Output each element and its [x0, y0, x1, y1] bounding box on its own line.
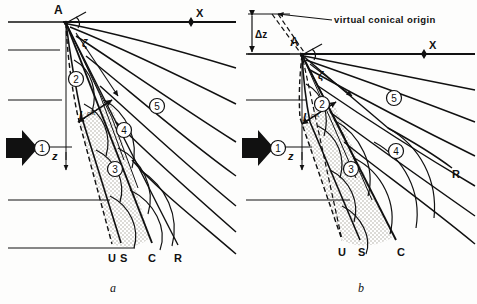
panel-caption-a: a [110, 281, 116, 296]
boundary-letter-s-a: S [120, 252, 127, 264]
x-axis-marker-a [188, 17, 194, 27]
zone-label-1-a: 1 [39, 143, 45, 154]
boundary-letter-c-a: C [148, 252, 156, 264]
z-axis-label-a: z [51, 150, 58, 162]
boundary-letter-r-a: R [174, 252, 182, 264]
panel-b-diagram: Δz virtual conical origin X A ζ z [238, 0, 477, 280]
boundary-letter-c-b: C [397, 246, 405, 258]
x-axis-label-a: X [196, 7, 204, 19]
flow-arrow-a [6, 130, 38, 166]
lcrit-label-b: L [303, 111, 310, 123]
boundary-letters-a: U S C R [108, 252, 182, 264]
boundary-letter-u-a: U [108, 252, 116, 264]
zone-label-5-a: 5 [154, 101, 160, 112]
zone-label-4-b: 4 [393, 146, 399, 157]
z-axis-label-b: z [287, 150, 294, 162]
zone-label-2-a: 2 [73, 74, 79, 85]
boundary-letter-s-b: S [358, 246, 365, 258]
apex-label-a: A [54, 3, 63, 17]
lcrit-label-a: L [79, 109, 86, 121]
boundary-letter-r-b: R [452, 168, 460, 180]
panel-caption-b: b [358, 281, 364, 296]
panel-a-diagram: X A ζ z [0, 0, 238, 280]
virtual-conical-origin-label-b: virtual conical origin [334, 14, 436, 25]
lcrit-subscript-a: crit [87, 110, 95, 116]
figure-root: X A ζ z [0, 0, 477, 304]
boundary-letter-u-b: U [338, 246, 346, 258]
zone-label-4-a: 4 [121, 125, 127, 136]
x-axis-label-b: X [429, 39, 437, 51]
lcrit-subscript-b: crit [311, 112, 319, 118]
vco-leader-b [278, 14, 332, 20]
x-axis-marker-b [421, 49, 427, 59]
flow-arrow-b [242, 130, 274, 166]
zone-label-1-b: 1 [275, 143, 281, 154]
zone-label-3-b: 3 [348, 164, 354, 175]
zone-label-5-b: 5 [391, 93, 397, 104]
delta-z-label-b: Δz [255, 29, 267, 40]
zone-label-2-b: 2 [319, 99, 325, 110]
zone-label-3-a: 3 [112, 164, 118, 175]
